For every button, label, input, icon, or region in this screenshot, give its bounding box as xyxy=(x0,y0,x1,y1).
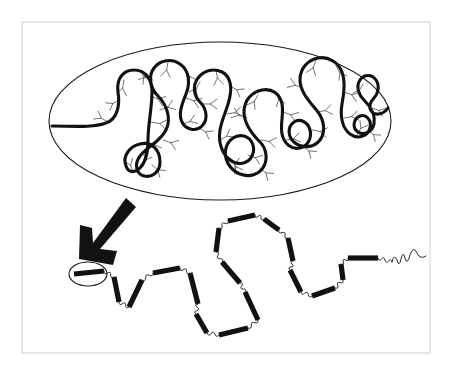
figure-border xyxy=(22,22,430,353)
chain-rod-segment xyxy=(74,271,104,274)
chain-rod-segment xyxy=(216,228,219,252)
figure-canvas: Condensed coiled biopolymer and its exte… xyxy=(0,0,451,372)
chain-rod-segment xyxy=(341,264,343,280)
figure-root: Condensed coiled biopolymer and its exte… xyxy=(0,0,451,372)
